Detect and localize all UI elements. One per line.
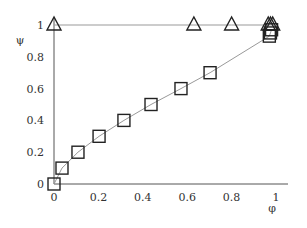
scatter-chart: 00.20.40.60.81 00.20.40.60.81 φ ψ [0,0,307,228]
x-tick-label: 0.4 [134,191,152,204]
squares-line [54,30,272,184]
x-tick-label: 0.8 [223,191,241,204]
series-lines [54,25,273,184]
x-tick-label: 0.6 [178,191,196,204]
x-axis-label: φ [268,202,276,215]
y-axis-label: ψ [16,34,25,47]
y-tick-label: 0.4 [27,114,45,127]
axes [54,18,288,184]
y-tick-label: 0.8 [27,51,45,64]
y-tick-label: 0 [37,178,44,191]
y-tick-label: 0.6 [27,83,45,96]
y-tick-labels: 00.20.40.60.81 [27,19,45,191]
y-tick-label: 0.2 [27,146,45,159]
x-tick-label: 0 [51,191,58,204]
y-tick-label: 1 [37,19,44,32]
triangle-marker [187,17,201,30]
series-markers [47,17,280,190]
x-tick-labels: 00.20.40.60.81 [51,191,280,204]
triangle-marker [225,17,239,30]
x-tick-label: 0.2 [90,191,108,204]
